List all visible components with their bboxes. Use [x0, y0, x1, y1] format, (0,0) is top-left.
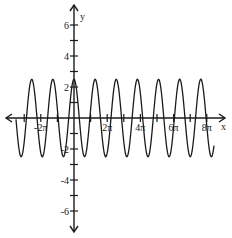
y-axis-label: y — [80, 11, 85, 22]
y-tick-label: -6 — [61, 206, 69, 217]
x-tick-label: -2π — [34, 122, 47, 133]
y-tick-label: -4 — [61, 175, 69, 186]
y-tick-label: 2 — [64, 82, 69, 93]
cosine-graph: -2π2π4π6π8π642-2-4-6 x y — [0, 0, 232, 238]
x-tick-label: 2π — [102, 122, 112, 133]
y-tick-label: 6 — [64, 20, 69, 31]
x-tick-label: 8π — [202, 122, 212, 133]
y-tick-label: 4 — [64, 51, 69, 62]
x-axis-label: x — [221, 121, 226, 132]
y-tick-label: -2 — [61, 144, 69, 155]
x-tick-label: 4π — [135, 122, 145, 133]
x-tick-label: 6π — [169, 122, 179, 133]
axes — [6, 5, 225, 232]
